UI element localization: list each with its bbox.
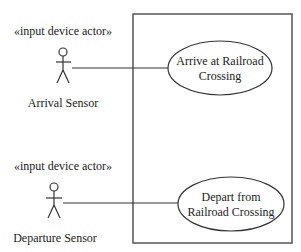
actor-departure-sensor[interactable]: «input device actor» Departure Sensor (13, 159, 112, 245)
use-case-label-line1: Arrive at Railroad (176, 54, 263, 68)
use-case-label-line2: Railroad Crossing (188, 205, 275, 219)
use-case-ellipse (178, 177, 284, 231)
use-case-label-line2: Crossing (199, 69, 242, 83)
use-case-ellipse (168, 41, 272, 95)
use-case-depart-from-railroad-crossing[interactable]: Depart from Railroad Crossing (178, 177, 284, 231)
actor-name: Departure Sensor (13, 231, 97, 245)
actor-stereotype: «input device actor» (14, 24, 112, 38)
use-case-label-line1: Depart from (202, 190, 262, 204)
use-case-diagram: «input device actor» Arrival Sensor «inp… (0, 0, 301, 252)
use-case-arrive-at-railroad-crossing[interactable]: Arrive at Railroad Crossing (168, 41, 272, 95)
stick-figure-icon (56, 48, 71, 83)
stick-figure-icon (46, 183, 62, 218)
actor-name: Arrival Sensor (28, 96, 98, 110)
actor-arrival-sensor[interactable]: «input device actor» Arrival Sensor (14, 24, 112, 110)
actor-stereotype: «input device actor» (14, 159, 112, 173)
